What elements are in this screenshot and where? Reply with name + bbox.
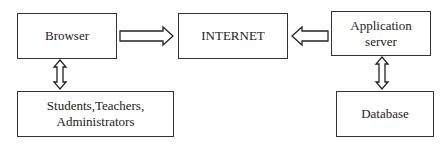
browser-to-internet-arrow-icon — [120, 27, 173, 45]
connector-arrows — [0, 0, 445, 145]
appserver-to-internet-arrow-icon — [292, 27, 328, 45]
browser-users-double-arrow-icon — [54, 60, 66, 89]
appserver-database-double-arrow-icon — [376, 57, 388, 89]
